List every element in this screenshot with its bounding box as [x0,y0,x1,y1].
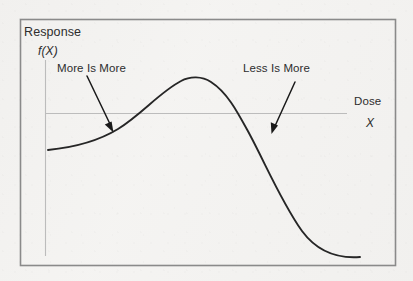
dose-response-figure: Response f(X) More Is More Less Is More … [0,0,413,281]
annotation-less-is-more: Less Is More [243,63,310,75]
more-is-more-arrow [87,76,114,133]
figure-frame [21,20,396,266]
y-axis-title: Response [24,26,81,39]
x-axis-title: Dose [354,96,381,108]
dose-response-chart [0,0,413,281]
less-is-more-arrow [271,82,295,134]
x-axis-symbol: X [366,117,374,129]
y-axis-symbol: f(X) [38,45,58,57]
annotation-more-is-more: More Is More [57,63,126,75]
dose-response-curve [48,77,360,257]
